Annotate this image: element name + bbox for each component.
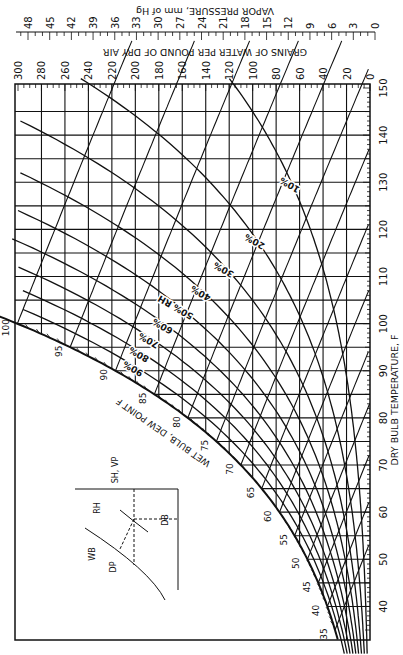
grains-tick-label: 80 (271, 67, 282, 80)
saturation-temp-label: 70 (225, 463, 235, 475)
grains-tick-label: 160 (177, 61, 188, 80)
dry-bulb-tick-label: 50 (378, 553, 389, 566)
rh-curve-label: 20% (243, 232, 267, 251)
saturation-temp-label: 80 (172, 416, 182, 428)
vapor-pressure-tick-label: 42 (66, 16, 77, 29)
grains-tick-label: 240 (83, 61, 94, 80)
dry-bulb-tick-label: 150 (378, 78, 389, 97)
saturation-temp-label: 35 (319, 628, 329, 639)
dry-bulb-tick-label: 120 (378, 220, 389, 239)
vapor-pressure-tick-label: 27 (175, 16, 186, 29)
inset-label: WB (88, 547, 97, 560)
vapor-pressure-tick-label: 36 (110, 16, 121, 29)
vapor-pressure-tick-label: 6 (327, 23, 338, 29)
vapor-pressure-tick-label: 24 (197, 16, 208, 29)
supersaturation-mask (0, 312, 338, 642)
dry-bulb-tick-label: 130 (378, 173, 389, 192)
vapor-pressure-tick-label: 15 (262, 16, 273, 29)
vapor-pressure-tick-label: 33 (131, 16, 142, 29)
saturation-temp-label: 95 (54, 345, 64, 356)
inset-label: SH, VP (111, 457, 120, 484)
grains-tick-label: 120 (224, 61, 235, 80)
saturation-temp-label: 100 (1, 319, 11, 336)
grains-tick-label: 100 (248, 61, 259, 80)
vapor-pressure-tick-label: 0 (370, 23, 381, 29)
saturation-temp-label: 75 (200, 440, 210, 451)
grains-tick-label: 20 (342, 67, 353, 80)
saturation-temp-label: 85 (138, 393, 148, 404)
dry-bulb-axis-label: DRY BULB TEMPERATURE, F (389, 334, 400, 465)
grains-tick-label: 140 (201, 61, 212, 80)
vapor-pressure-tick-label: 21 (218, 16, 229, 29)
rh-curve-label: 60% (151, 317, 175, 336)
dry-bulb-tick-label: 70 (378, 459, 389, 472)
inset-label: DP (109, 561, 118, 572)
vapor-pressure-tick-label: 45 (45, 16, 56, 29)
inset-label: DB (161, 514, 170, 526)
vapor-pressure-tick-label: 30 (153, 16, 164, 29)
saturation-temp-label: 45 (302, 581, 312, 592)
vapor-pressure-tick-label: 48 (23, 16, 34, 29)
dry-bulb-tick-label: 90 (378, 364, 389, 377)
grains-tick-label: 260 (60, 61, 71, 80)
grains-axis-label: GRAINS OF WATER PER POUND OF DRY AIR (103, 47, 307, 58)
dry-bulb-tick-label: 60 (378, 506, 389, 519)
psychrometric-chart: 10%20%30%40%50% RH60%70%80%90% 354045505… (0, 0, 403, 655)
grains-tick-label: 40 (318, 67, 329, 80)
saturation-temp-label: 90 (99, 369, 109, 381)
vapor-pressure-axis-label: VAPOR PRESSURE, mm of Hg (136, 6, 274, 17)
wet-bulb-line (262, 225, 369, 489)
chart-canvas: 10%20%30%40%50% RH60%70%80%90% 354045505… (0, 0, 403, 655)
saturation-temp-label: 40 (311, 604, 321, 616)
grains-tick-label: 60 (295, 67, 306, 80)
wet-bulb-line (154, 41, 298, 394)
vapor-pressure-tick-label: 9 (305, 23, 316, 29)
supersaturation-area (0, 312, 338, 642)
vapor-pressure-tick-label: 39 (88, 16, 99, 29)
wet-bulb-line (327, 503, 368, 607)
dry-bulb-tick-label: 110 (378, 267, 389, 286)
saturation-temp-label: 50 (291, 557, 301, 569)
dry-bulb-tick-label: 80 (378, 412, 389, 425)
wet-bulb-line (216, 69, 368, 441)
grains-tick-label: 220 (107, 61, 118, 80)
saturation-temp-label: 55 (279, 534, 289, 545)
vapor-pressure-tick-label: 3 (348, 23, 359, 29)
inset-label: RH (93, 502, 102, 514)
dry-bulb-tick-label: 140 (378, 126, 389, 145)
vapor-pressure-tick-label: 12 (283, 16, 294, 29)
grains-tick-label: 180 (154, 61, 165, 80)
dry-bulb-tick-label: 100 (378, 314, 389, 333)
grains-tick-label: 200 (130, 61, 141, 80)
grains-tick-label: 300 (13, 61, 24, 80)
grains-tick-label: 0 (365, 74, 376, 80)
saturation-temp-label: 60 (263, 510, 273, 522)
saturation-temp-label: 65 (246, 487, 256, 498)
grains-tick-label: 280 (36, 61, 47, 80)
vapor-pressure-tick-label: 18 (240, 16, 251, 29)
dry-bulb-tick-label: 40 (378, 600, 389, 613)
